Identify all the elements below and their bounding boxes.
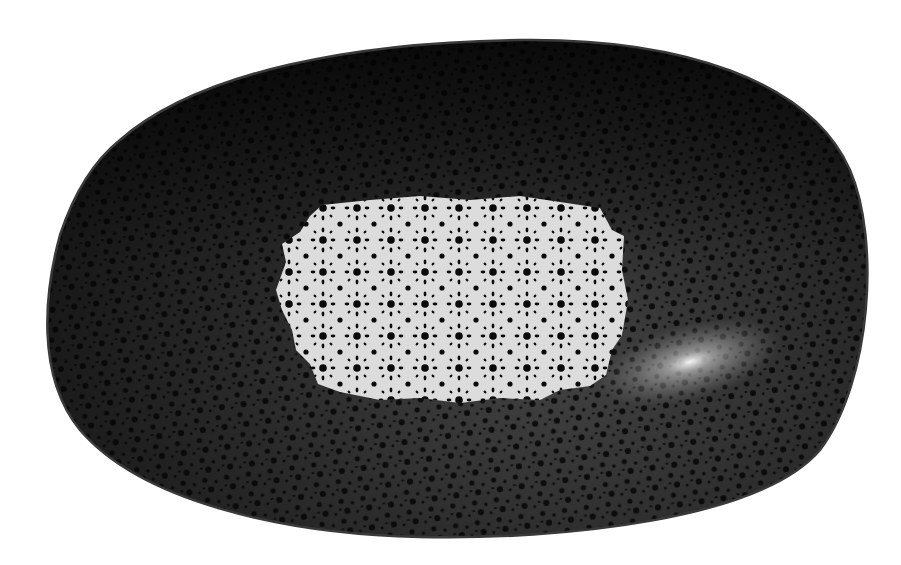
- center-patch: [276, 196, 628, 403]
- photo-scene: Oval black ceramic serving dish with spe…: [0, 0, 901, 565]
- dish-illustration: [0, 0, 901, 565]
